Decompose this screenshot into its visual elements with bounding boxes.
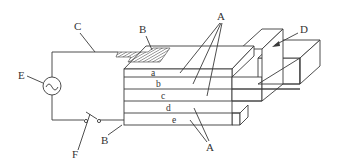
layer-label-b: b [156, 79, 161, 89]
switch-lever [86, 112, 97, 119]
label-E: E [18, 69, 25, 81]
layer-label-c: c [161, 91, 165, 101]
layer-label-d: d [166, 103, 171, 113]
label-B-top: B [139, 23, 146, 35]
label-F: F [72, 148, 78, 160]
label-C: C [74, 20, 81, 32]
label-A-top: A [217, 10, 225, 22]
layer-label-e: e [172, 115, 176, 125]
ac-source [43, 77, 61, 95]
label-B-bottom: B [101, 134, 108, 146]
circuit [43, 52, 124, 123]
diagram-canvas: a b c d e C B A D E B F A [0, 0, 346, 167]
label-D: D [300, 23, 308, 35]
label-A-bottom: A [206, 141, 214, 153]
